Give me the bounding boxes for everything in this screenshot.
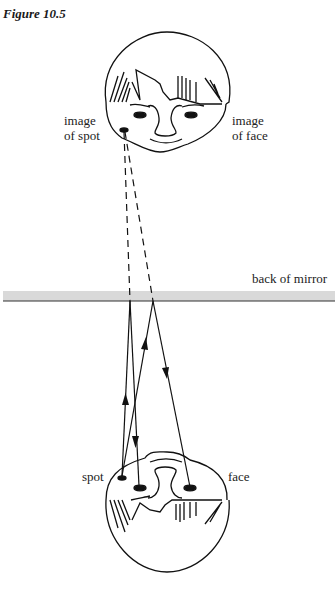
- virtual-rays: [124, 132, 153, 301]
- ray-arrows: [122, 337, 169, 448]
- light-rays: [122, 301, 190, 487]
- real-face: [106, 452, 229, 572]
- mirror-diagram: [0, 0, 335, 592]
- mirror: [3, 291, 335, 301]
